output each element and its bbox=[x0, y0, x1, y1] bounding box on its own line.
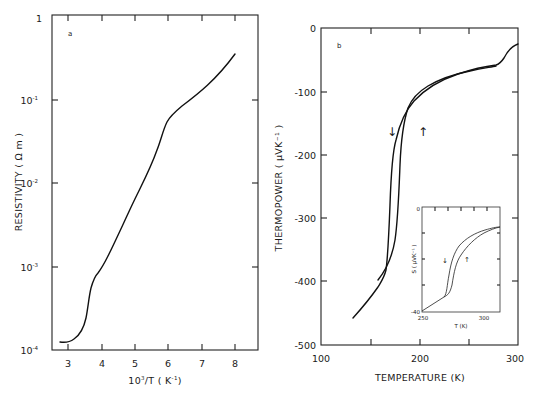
y-tick-label: 10-1 bbox=[20, 95, 38, 106]
panel-b-letter: b bbox=[337, 42, 342, 50]
y-tick-label: -100 bbox=[294, 87, 316, 98]
inset-chart: 0 -40 250 300 T (K) S ( μVK⁻¹ ) ↓ ↑ bbox=[411, 206, 500, 329]
x-tick-label: 200 bbox=[411, 353, 429, 364]
panel-a-y-ticks bbox=[52, 100, 258, 267]
x-tick-label: 4 bbox=[99, 358, 105, 369]
inset-arrow-down-icon: ↓ bbox=[442, 257, 448, 265]
y-tick-label: 0 bbox=[310, 23, 316, 34]
x-tick-label: 7 bbox=[199, 358, 205, 369]
panel-a-x-axis-label: 103/T ( K-1) bbox=[128, 375, 181, 386]
x-tick-label: 6 bbox=[165, 358, 171, 369]
inset-y-axis-label: S ( μVK⁻¹ ) bbox=[411, 244, 418, 273]
x-tick-label: 5 bbox=[132, 358, 138, 369]
panel-b-x-axis-label: TEMPERATURE (K) bbox=[374, 372, 465, 383]
inset-x-axis-label: T (K) bbox=[453, 323, 467, 329]
resistivity-curve bbox=[60, 54, 235, 342]
panel-a-y-axis-label: RESISTIVITY ( Ω m ) bbox=[13, 133, 24, 232]
panel-b: 100 200 300 0 -100 -200 -300 -400 -500 T… bbox=[273, 23, 524, 383]
arrow-up-icon: ↑ bbox=[418, 125, 428, 139]
y-tick-label: -400 bbox=[294, 276, 316, 287]
x-tick-label: 3 bbox=[65, 358, 71, 369]
inset-frame bbox=[422, 207, 500, 312]
y-tick-label: 10-4 bbox=[20, 345, 38, 356]
arrow-down-icon: ↓ bbox=[387, 125, 397, 139]
x-tick-label: 8 bbox=[232, 358, 238, 369]
panel-a-letter: a bbox=[68, 30, 72, 38]
inset-arrow-up-icon: ↑ bbox=[464, 256, 470, 264]
inset-y-tick-label: 0 bbox=[417, 206, 421, 212]
y-tick-label: 1 bbox=[36, 13, 42, 24]
panel-b-x-tick-labels: 100 200 300 bbox=[312, 353, 524, 364]
panel-a-x-tick-labels: 3 4 5 6 7 8 bbox=[65, 358, 238, 369]
y-tick-label: -500 bbox=[294, 340, 316, 351]
x-tick-label: 300 bbox=[506, 353, 524, 364]
inset-x-tick-label: 250 bbox=[418, 315, 429, 321]
y-tick-label: 10-3 bbox=[20, 262, 38, 273]
panel-a: 3 4 5 6 7 8 1 10-1 10-2 10-3 10-4 RESIST… bbox=[13, 13, 258, 386]
y-tick-label: -300 bbox=[294, 213, 316, 224]
inset-x-tick-label: 300 bbox=[479, 315, 490, 321]
panel-b-y-tick-labels: 0 -100 -200 -300 -400 -500 bbox=[294, 23, 316, 351]
panel-b-y-axis-label: THERMOPOWER ( μVK⁻¹ ) bbox=[273, 125, 284, 253]
panel-a-x-ticks bbox=[68, 15, 235, 350]
y-tick-label: -200 bbox=[294, 150, 316, 161]
x-tick-label: 100 bbox=[312, 353, 330, 364]
figure: 3 4 5 6 7 8 1 10-1 10-2 10-3 10-4 RESIST… bbox=[0, 0, 534, 398]
